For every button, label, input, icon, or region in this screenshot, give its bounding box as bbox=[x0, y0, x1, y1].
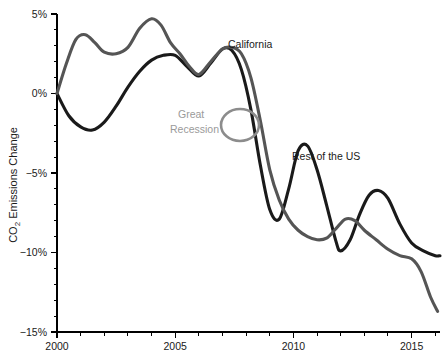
california-label: California bbox=[228, 38, 273, 50]
y-axis-tick-label: 0% bbox=[32, 87, 47, 99]
great-recession-label-line1: Great bbox=[178, 108, 204, 120]
y-axis-tick-label: 5% bbox=[32, 8, 47, 20]
y-axis-tick-label: −5% bbox=[26, 167, 47, 179]
x-axis-tick-label: 2010 bbox=[282, 340, 306, 352]
y-axis-title-main: CO bbox=[7, 226, 19, 243]
x-axis-tick-label: 2000 bbox=[45, 340, 69, 352]
x-axis-tick-label: 2015 bbox=[400, 340, 424, 352]
chart-background bbox=[0, 0, 443, 363]
y-axis-title-rest: Emissions Change bbox=[7, 127, 19, 222]
y-axis-tick-label: −10% bbox=[20, 246, 47, 258]
rest-of-us-label: Rest of the US bbox=[292, 150, 360, 162]
co2-emissions-change-line-chart: 5%0%−5%−10%−15% 2000200520102015 CO2 Emi… bbox=[0, 0, 443, 363]
x-axis-tick-label: 2005 bbox=[164, 340, 188, 352]
great-recession-label-line2: Recession bbox=[170, 123, 219, 135]
y-axis-tick-label: −15% bbox=[20, 326, 47, 338]
chart-container: 5%0%−5%−10%−15% 2000200520102015 CO2 Emi… bbox=[0, 0, 443, 363]
